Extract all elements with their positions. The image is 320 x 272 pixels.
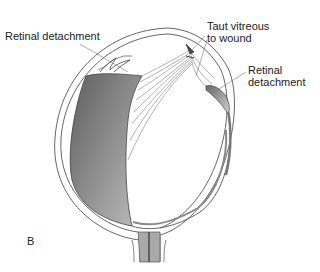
- label-taut-vitreous-line2: to wound: [207, 32, 252, 44]
- panel-letter: B: [27, 235, 34, 247]
- detached-retina-left: [70, 74, 142, 226]
- vitreous-strands: [128, 50, 214, 160]
- label-retinal-detachment-right-line1: Retinal: [248, 64, 282, 76]
- eye-diagram: Retinal detachment Taut vitreous to woun…: [0, 0, 320, 272]
- label-taut-vitreous-line1: Taut vitreous: [207, 20, 269, 32]
- label-retinal-detachment-left: Retinal detachment: [5, 30, 100, 42]
- optic-nerve: [132, 232, 166, 262]
- label-retinal-detachment-right-line2: detachment: [248, 76, 305, 88]
- retinal-flap-top: [100, 58, 130, 72]
